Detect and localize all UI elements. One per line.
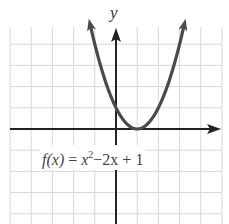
coordinate-plane xyxy=(0,0,229,224)
function-rest: −2x + 1 xyxy=(93,151,143,168)
y-axis-label: y xyxy=(110,3,118,23)
function-label: f(x) = x2−2x + 1 xyxy=(40,145,145,170)
function-lhs: f(x) xyxy=(42,151,64,168)
axes xyxy=(10,28,221,224)
function-eq: = xyxy=(64,151,81,168)
